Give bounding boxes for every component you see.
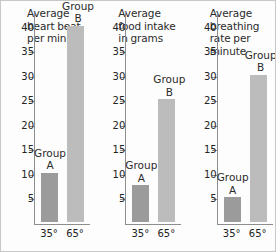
bar-label-group-b-line1: Group <box>62 0 94 12</box>
bar-label-group-a-line1: Group <box>34 147 66 159</box>
plot-area-heart-beat: 510152025303540 Group A Group B 35° 65° <box>1 1 92 251</box>
y-tick-label: 30 <box>191 72 217 82</box>
y-tick-label: 5 <box>99 194 125 204</box>
y-tick-label: 20 <box>191 121 217 131</box>
bar-group-a <box>132 185 149 222</box>
chart-panel-breathing-rate: Average breathing rate per minute 510152… <box>184 1 275 251</box>
bar-label-group-b: Group B <box>238 49 276 74</box>
y-tick-label: 25 <box>191 96 217 106</box>
bar-label-group-b-line1: Group <box>153 73 185 85</box>
bar-group-b <box>67 26 84 222</box>
bar-label-group-a-line2: A <box>138 172 145 184</box>
y-tick-label: 15 <box>99 145 125 155</box>
bar-label-group-a-line1: Group <box>217 171 249 183</box>
chart-panel-heart-beat: Average heart beat per minute 5101520253… <box>1 1 92 251</box>
charts-row: Average heart beat per minute 5101520253… <box>1 1 275 251</box>
y-tick-label: 30 <box>99 72 125 82</box>
y-tick-label: 5 <box>8 194 34 204</box>
bar-label-group-a: Group A <box>118 159 164 184</box>
y-tick-label: 30 <box>8 72 34 82</box>
bar-label-group-b-line2: B <box>257 61 264 73</box>
y-axis-line <box>125 13 126 225</box>
x-axis-line <box>125 224 181 225</box>
plot-area-breathing-rate: 510152025303540 Group A Group B 35° 65° <box>184 1 275 251</box>
bar-label-group-a-line2: A <box>46 159 53 171</box>
x-axis-line <box>34 224 90 225</box>
y-tick-label: 35 <box>191 47 217 57</box>
bar-label-group-b-line2: B <box>166 86 173 98</box>
bar-label-group-b-line1: Group <box>245 49 276 61</box>
bar-group-b <box>250 75 267 222</box>
bar-label-group-a: Group A <box>27 147 73 172</box>
bar-label-group-a: Group A <box>210 171 256 196</box>
plot-area-food-intake: 510152025303540 Group A Group B 35° 65° <box>92 1 183 251</box>
y-tick-label: 40 <box>99 23 125 33</box>
bar-label-group-b-line2: B <box>74 12 81 24</box>
y-tick-label: 15 <box>191 145 217 155</box>
x-tick-label-b: 65° <box>151 228 181 239</box>
x-axis-line <box>217 224 273 225</box>
y-tick-label: 35 <box>99 47 125 57</box>
bar-group-a <box>41 173 58 222</box>
figure-root: Average heart beat per minute 5101520253… <box>0 0 276 252</box>
y-tick-label: 25 <box>8 96 34 106</box>
y-tick-label: 40 <box>8 23 34 33</box>
y-axis-line <box>34 13 35 225</box>
bar-group-a <box>224 197 241 222</box>
bar-label-group-a-line2: A <box>229 184 236 196</box>
x-tick-label-b: 65° <box>243 228 273 239</box>
y-tick-label: 25 <box>99 96 125 106</box>
y-tick-label: 40 <box>191 23 217 33</box>
y-tick-label: 20 <box>8 121 34 131</box>
x-tick-label-b: 65° <box>60 228 90 239</box>
chart-panel-food-intake: Average food intake in grams 51015202530… <box>92 1 183 251</box>
y-tick-label: 35 <box>8 47 34 57</box>
y-tick-label: 20 <box>99 121 125 131</box>
bar-label-group-a-line1: Group <box>125 159 157 171</box>
